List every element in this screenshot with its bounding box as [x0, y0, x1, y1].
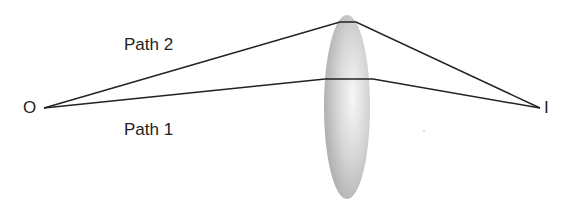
convex-lens — [324, 15, 370, 199]
speck — [423, 130, 425, 132]
diagram-canvas — [0, 0, 562, 213]
path-2-label: Path 2 — [124, 36, 173, 53]
path-1-label: Path 1 — [124, 121, 173, 138]
object-label: O — [23, 99, 36, 116]
image-label: I — [544, 99, 549, 116]
lens-diagram: O I Path 2 Path 1 — [0, 0, 562, 213]
ray-path-1 — [44, 79, 540, 108]
